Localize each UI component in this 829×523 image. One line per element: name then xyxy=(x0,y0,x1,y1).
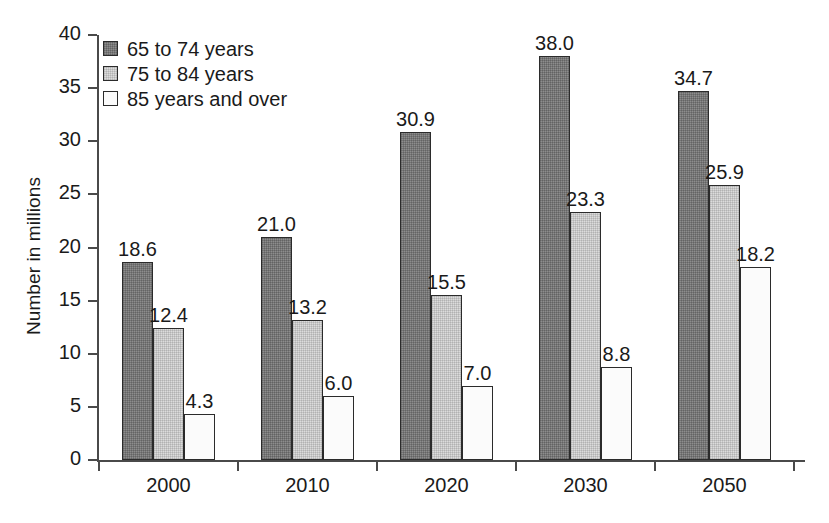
legend-item[interactable]: 75 to 84 years xyxy=(103,61,287,86)
bar-value-label: 13.2 xyxy=(288,297,327,318)
bar-value-label: 38.0 xyxy=(535,33,574,54)
y-axis-tick-label: 0 xyxy=(70,447,81,469)
y-axis-line xyxy=(97,35,99,460)
y-axis-tick-label: 35 xyxy=(59,75,81,97)
y-axis-tick: 25 xyxy=(88,193,97,195)
y-axis-tick: 0 xyxy=(88,459,97,461)
bar[interactable]: 30.9 xyxy=(400,132,431,460)
y-axis-tick: 5 xyxy=(88,406,97,408)
x-axis-category-label: 2000 xyxy=(124,474,214,497)
y-axis-tick: 40 xyxy=(88,34,97,36)
bar-value-label: 21.0 xyxy=(257,214,296,235)
bar[interactable]: 7.0 xyxy=(462,386,493,460)
bar-chart: Number in millions 051015202530354018.61… xyxy=(0,0,829,523)
bar[interactable]: 34.7 xyxy=(678,91,709,460)
bar[interactable]: 21.0 xyxy=(261,237,292,460)
bar-value-label: 18.2 xyxy=(736,244,775,265)
y-axis-tick-label: 20 xyxy=(59,235,81,257)
y-axis-tick: 30 xyxy=(88,140,97,142)
legend-item[interactable]: 85 years and over xyxy=(103,86,287,111)
bar[interactable]: 13.2 xyxy=(292,320,323,460)
bar-value-label: 15.5 xyxy=(427,272,466,293)
bar-value-label: 12.4 xyxy=(149,305,188,326)
legend-label: 75 to 84 years xyxy=(127,63,254,85)
x-axis-line xyxy=(97,460,805,462)
legend-swatch-icon xyxy=(103,66,118,81)
x-axis-tick xyxy=(515,460,517,471)
bar[interactable]: 15.5 xyxy=(431,295,462,460)
x-axis-category-label: 2020 xyxy=(402,474,492,497)
bar-value-label: 8.8 xyxy=(603,344,631,365)
bar[interactable]: 12.4 xyxy=(153,328,184,460)
bar[interactable]: 6.0 xyxy=(323,396,354,460)
y-axis-tick-label: 5 xyxy=(70,394,81,416)
bar[interactable]: 18.6 xyxy=(122,262,153,460)
bar[interactable]: 38.0 xyxy=(539,56,570,460)
bar[interactable]: 18.2 xyxy=(740,267,771,460)
legend-swatch-icon xyxy=(103,91,118,106)
bar[interactable]: 25.9 xyxy=(709,185,740,460)
legend-swatch-icon xyxy=(103,41,118,56)
x-axis-tick xyxy=(237,460,239,471)
legend-label: 65 to 74 years xyxy=(127,38,254,60)
bar-value-label: 6.0 xyxy=(325,373,353,394)
y-axis-tick-label: 40 xyxy=(59,22,81,44)
y-axis-tick: 10 xyxy=(88,353,97,355)
bar-value-label: 34.7 xyxy=(674,68,713,89)
y-axis-tick-label: 10 xyxy=(59,341,81,363)
y-axis-tick-label: 30 xyxy=(59,128,81,150)
x-axis-tick xyxy=(654,460,656,471)
y-axis-tick: 20 xyxy=(88,247,97,249)
x-axis-tick xyxy=(98,460,100,471)
bar-value-label: 23.3 xyxy=(566,189,605,210)
y-axis-tick: 15 xyxy=(88,300,97,302)
bar-value-label: 7.0 xyxy=(464,363,492,384)
x-axis-category-label: 2050 xyxy=(680,474,770,497)
bar-value-label: 30.9 xyxy=(396,109,435,130)
chart-legend: 65 to 74 years75 to 84 years85 years and… xyxy=(103,36,287,111)
bar[interactable]: 8.8 xyxy=(601,367,632,461)
bar[interactable]: 4.3 xyxy=(184,414,215,460)
bar-value-label: 4.3 xyxy=(186,391,214,412)
bar-value-label: 25.9 xyxy=(705,162,744,183)
y-axis-tick: 35 xyxy=(88,87,97,89)
y-axis-title: Number in millions xyxy=(23,96,45,416)
bar[interactable]: 23.3 xyxy=(570,212,601,460)
legend-item[interactable]: 65 to 74 years xyxy=(103,36,287,61)
x-axis-tick xyxy=(793,460,795,471)
x-axis-category-label: 2010 xyxy=(263,474,353,497)
x-axis-category-label: 2030 xyxy=(541,474,631,497)
bar-value-label: 18.6 xyxy=(118,239,157,260)
y-axis-tick-label: 25 xyxy=(59,181,81,203)
legend-label: 85 years and over xyxy=(127,88,287,110)
y-axis-tick-label: 15 xyxy=(59,288,81,310)
x-axis-tick xyxy=(376,460,378,471)
